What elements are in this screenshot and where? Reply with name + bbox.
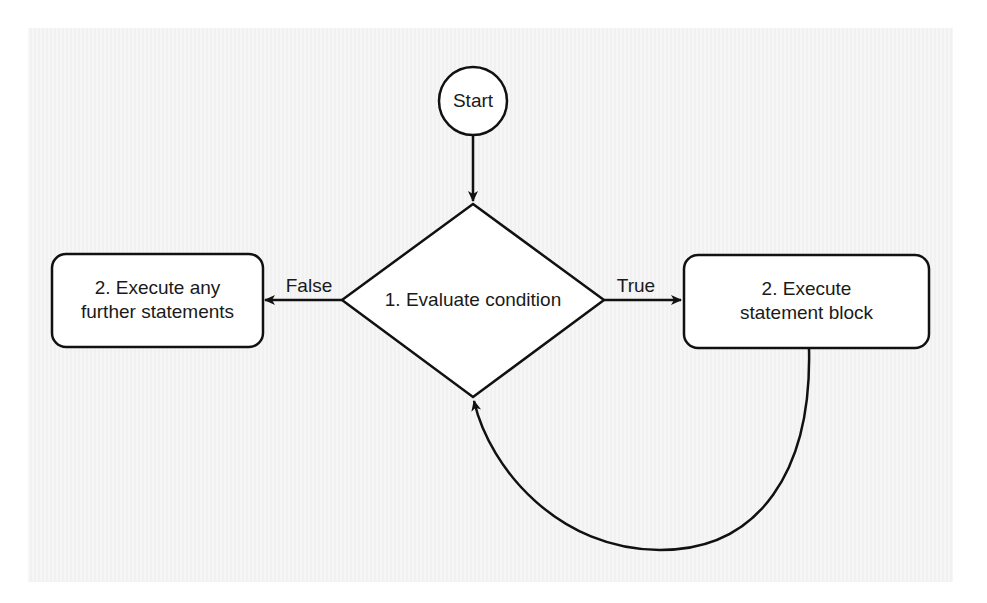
edge-loop-back [474, 348, 809, 550]
false-block-line2: further statements [52, 300, 263, 324]
condition-label: 1. Evaluate condition [362, 288, 584, 312]
true-block-line1: 2. Execute [684, 277, 929, 301]
true-block-line2: statement block [684, 301, 929, 325]
start-label: Start [439, 89, 507, 113]
false-edge-label: False [278, 274, 340, 298]
true-edge-label: True [606, 274, 666, 298]
false-block-line1: 2. Execute any [52, 276, 263, 300]
